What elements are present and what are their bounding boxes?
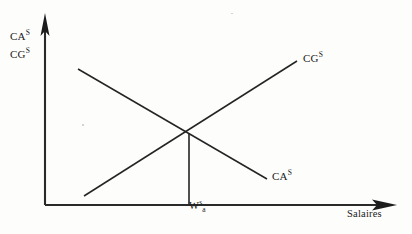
curve-cg-supply <box>84 61 297 196</box>
y-axis-label-ca: CAS <box>10 30 30 42</box>
scan-speck <box>82 124 84 126</box>
x-axis-label: Salaires <box>347 208 382 219</box>
curve-label-ca: CAS <box>272 170 292 182</box>
curve-label-cg: CGS <box>303 52 323 64</box>
curve-ca-supply <box>78 69 267 179</box>
diagram-canvas <box>0 0 412 234</box>
economics-diagram: CAS CGS CGS CAS Wsa Salaires <box>0 0 412 234</box>
scan-speck <box>231 13 233 14</box>
y-axis-label-cg: CGS <box>10 48 30 60</box>
equilibrium-wage-label: Wsa <box>189 200 206 211</box>
